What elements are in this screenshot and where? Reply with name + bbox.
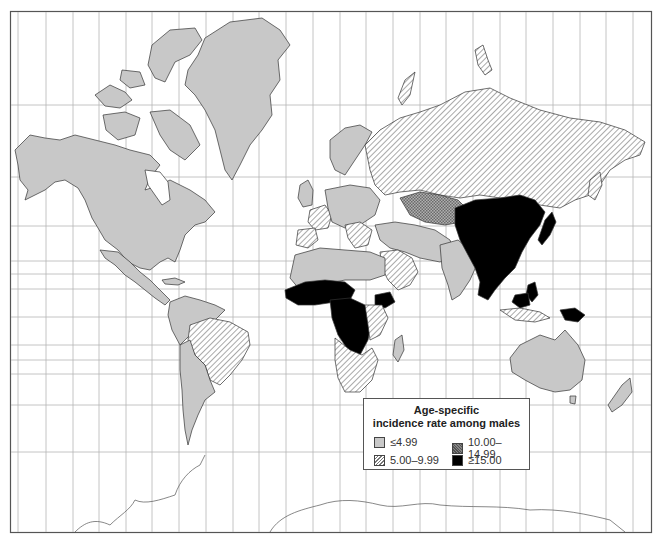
legend-item-low: ≤4.99	[374, 436, 417, 448]
legend-item-mid: 5.00–9.99	[374, 454, 439, 466]
legend-label: ≤4.99	[390, 436, 417, 448]
legend: Age-specific incidence rate among males …	[363, 398, 530, 470]
legend-label: 5.00–9.99	[390, 454, 439, 466]
legend-item-top: ≥15.00	[452, 454, 502, 466]
legend-title-line1: Age-specific	[364, 404, 529, 416]
region-tasmania	[570, 396, 576, 404]
swatch-hatch-icon	[374, 455, 385, 466]
world-map	[0, 0, 657, 540]
legend-label: ≥15.00	[468, 454, 502, 466]
swatch-light-gray-icon	[374, 437, 385, 448]
swatch-crosshatch-icon	[452, 443, 463, 454]
swatch-black-icon	[452, 455, 463, 466]
legend-title-line2: incidence rate among males	[364, 417, 529, 429]
